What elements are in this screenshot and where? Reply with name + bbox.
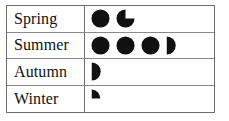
season-label-summer: Summer	[7, 33, 85, 59]
full-circle-icon	[91, 9, 110, 28]
full-circle-icon	[116, 36, 135, 55]
table-row: Spring	[7, 6, 214, 33]
season-label-autumn: Autumn	[7, 59, 85, 85]
season-label-winter: Winter	[7, 86, 85, 113]
symbol-cell-spring	[85, 6, 214, 32]
quarter-circle-icon	[91, 89, 101, 108]
three-quarter-circle-icon	[116, 9, 135, 28]
table-row: Summer	[7, 33, 214, 60]
table-row: Autumn	[7, 59, 214, 86]
symbol-cell-winter	[85, 86, 214, 113]
full-circle-icon	[141, 36, 160, 55]
symbol-cell-autumn	[85, 59, 214, 85]
full-circle-icon	[91, 36, 110, 55]
half-circle-icon	[166, 36, 176, 55]
half-circle-icon	[91, 62, 101, 81]
pictograph-table: Spring Summer Autumn	[6, 5, 215, 113]
symbol-cell-summer	[85, 33, 214, 59]
season-label-spring: Spring	[7, 6, 85, 32]
table-row: Winter	[7, 86, 214, 113]
